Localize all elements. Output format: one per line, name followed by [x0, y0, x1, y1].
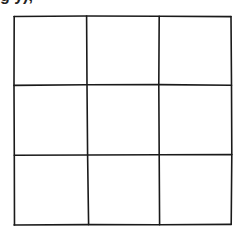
cell-r1-c2	[87, 16, 159, 85]
border-top	[14, 16, 231, 17]
cell-r1-c3	[159, 16, 231, 85]
cell-r3-c2	[87, 155, 159, 225]
cell-r3-c1	[14, 155, 87, 225]
grid-cells	[14, 16, 231, 225]
horizontal-divider-2	[14, 155, 232, 156]
cell-r2-c3	[159, 85, 231, 155]
border-left	[14, 17, 15, 226]
border-bottom	[14, 224, 231, 225]
grid-figure	[0, 0, 246, 235]
cell-r1-c1	[14, 16, 87, 85]
horizontal-divider-1	[14, 85, 232, 86]
cell-r2-c2	[87, 85, 159, 155]
cell-r3-c3	[159, 155, 231, 225]
border-right	[231, 17, 232, 225]
vertical-divider-2	[159, 16, 160, 225]
cell-r2-c1	[14, 85, 87, 155]
